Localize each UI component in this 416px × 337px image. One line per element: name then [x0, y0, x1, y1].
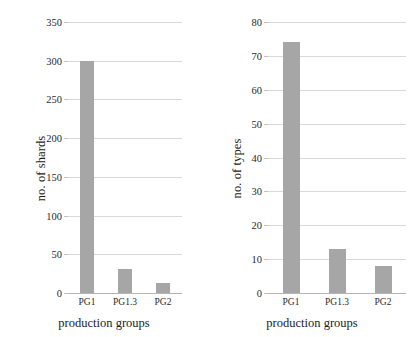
gridline: [68, 22, 182, 23]
y-tick-label: 350: [46, 17, 68, 28]
y-tick-label: 250: [46, 94, 68, 105]
y-tick-label: 20: [252, 220, 269, 231]
x-tick-label: PG1.3: [325, 297, 349, 307]
bar-chart-figure: no. of shards 050100150200250300350PG1PG…: [0, 0, 416, 337]
bar-pg2: [375, 266, 392, 293]
y-tick-label: 60: [252, 84, 269, 95]
plot-area-types: 01020304050607080PG1PG1.3PG2: [268, 22, 406, 293]
y-tick-label: 50: [252, 118, 269, 129]
y-axis-title-shards: no. of shards: [30, 0, 52, 337]
gridline: [268, 22, 406, 23]
axis-baseline: [268, 293, 406, 294]
y-tick-label: 200: [46, 133, 68, 144]
y-tick-label: 0: [57, 288, 68, 299]
axis-baseline: [68, 293, 182, 294]
bar-pg1-3: [118, 269, 132, 293]
y-tick-label: 30: [252, 186, 269, 197]
y-tick-label: 300: [46, 55, 68, 66]
x-axis-title-types: production groups: [208, 316, 416, 331]
x-tick-label: PG1.3: [113, 297, 137, 307]
y-tick-label: 80: [252, 17, 269, 28]
x-tick-label: PG2: [375, 297, 392, 307]
y-axis-title-types: no. of types: [226, 0, 248, 337]
y-tick-label: 70: [252, 50, 269, 61]
y-tick-label: 100: [46, 210, 68, 221]
bar-pg1: [283, 42, 300, 293]
y-tick-label: 40: [252, 152, 269, 163]
plot-area-shards: 050100150200250300350PG1PG1.3PG2: [68, 22, 182, 293]
y-tick-label: 0: [257, 288, 268, 299]
x-axis-title-shards: production groups: [0, 316, 208, 331]
bar-pg1: [80, 61, 94, 293]
x-tick-label: PG1: [79, 297, 96, 307]
chart-panel-shards: no. of shards 050100150200250300350PG1PG…: [0, 0, 208, 337]
x-tick-label: PG2: [155, 297, 172, 307]
bar-pg1-3: [329, 249, 346, 293]
y-tick-label: 50: [52, 249, 69, 260]
bar-pg2: [156, 283, 170, 293]
y-tick-label: 150: [46, 171, 68, 182]
chart-panel-types: no. of types 01020304050607080PG1PG1.3PG…: [208, 0, 416, 337]
x-tick-label: PG1: [283, 297, 300, 307]
y-tick-label: 10: [252, 254, 269, 265]
